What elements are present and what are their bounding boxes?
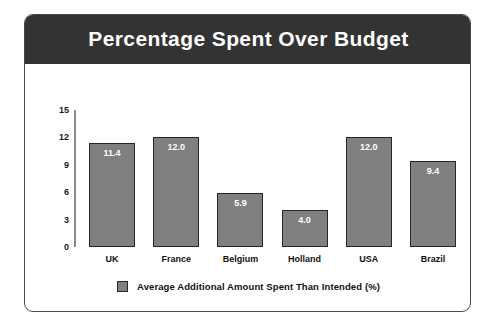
y-axis-tick-label: 0: [43, 242, 69, 252]
bar-group[interactable]: 9.4: [410, 161, 456, 247]
y-axis-tick-labels: 03691215: [37, 65, 69, 312]
bar-value-label: 9.4: [411, 166, 455, 176]
bar[interactable]: 12.0: [346, 137, 392, 247]
y-axis-tick-label: 6: [43, 187, 69, 197]
x-axis-category-label: USA: [334, 254, 404, 264]
bar-value-label: 5.9: [218, 198, 262, 208]
x-axis-category-label: Holland: [270, 254, 340, 264]
x-axis-category-label: UK: [77, 254, 147, 264]
bar-group[interactable]: 4.0: [282, 210, 328, 247]
y-axis-tick-label: 12: [43, 132, 69, 142]
bar-group[interactable]: 11.4: [89, 143, 135, 247]
bar-value-label: 12.0: [154, 142, 198, 152]
legend: Average Additional Amount Spent Than Int…: [25, 281, 471, 292]
bar-group[interactable]: 12.0: [346, 137, 392, 247]
chart-title-band: Percentage Spent Over Budget: [24, 14, 471, 64]
bar[interactable]: 4.0: [282, 210, 328, 247]
bar[interactable]: 12.0: [153, 137, 199, 247]
bar[interactable]: 5.9: [217, 193, 263, 247]
plot-area: 03691215 11.412.05.94.012.09.4 Average A…: [25, 65, 471, 312]
bar-value-label: 11.4: [90, 148, 134, 158]
y-axis-line: [74, 110, 76, 247]
legend-swatch-icon: [117, 281, 128, 292]
y-axis-tick-label: 3: [43, 215, 69, 225]
y-axis-tick-label: 9: [43, 160, 69, 170]
bar[interactable]: 11.4: [89, 143, 135, 247]
bars-container: 11.412.05.94.012.09.4: [80, 110, 465, 247]
y-axis-tick-label: 15: [43, 105, 69, 115]
x-axis-category-label: France: [141, 254, 211, 264]
chart-card: Percentage Spent Over Budget 03691215 11…: [24, 14, 471, 312]
x-axis-category-label: Brazil: [398, 254, 468, 264]
bar-value-label: 12.0: [347, 142, 391, 152]
bar[interactable]: 9.4: [410, 161, 456, 247]
x-axis-category-label: Belgium: [205, 254, 275, 264]
bar-group[interactable]: 12.0: [153, 137, 199, 247]
page-title: Percentage Spent Over Budget: [88, 27, 408, 51]
bar-group[interactable]: 5.9: [217, 193, 263, 247]
bar-value-label: 4.0: [283, 215, 327, 225]
legend-label: Average Additional Amount Spent Than Int…: [137, 281, 380, 292]
